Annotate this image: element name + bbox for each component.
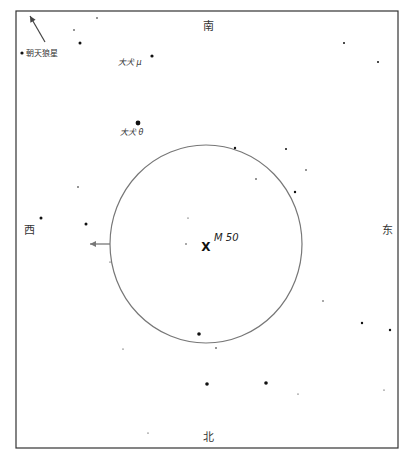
star	[322, 300, 323, 301]
direction-east-label: 东	[382, 221, 393, 237]
star	[147, 432, 148, 433]
sirius-pointer-label: 朝天狼星	[26, 47, 58, 58]
labeled-star[interactable]	[150, 54, 153, 57]
star	[234, 147, 236, 149]
star	[255, 178, 257, 180]
star-label-mu-cma: 大犬 μ	[118, 56, 142, 67]
star	[343, 42, 345, 44]
star	[96, 17, 98, 19]
direction-south-label: 南	[203, 17, 214, 33]
target-marker-icon[interactable]: X	[201, 240, 211, 254]
star	[264, 381, 268, 385]
star	[294, 191, 296, 193]
star	[77, 186, 79, 188]
star	[389, 329, 391, 331]
star	[122, 348, 123, 349]
direction-west-label: 西	[24, 221, 35, 237]
star	[85, 223, 88, 226]
star	[197, 332, 201, 336]
star	[73, 29, 75, 31]
star	[109, 261, 110, 262]
direction-arrow-icon	[90, 241, 110, 247]
star	[361, 322, 363, 324]
star	[297, 393, 298, 394]
sirius-pointer-dot	[20, 51, 23, 54]
star-field	[40, 17, 392, 433]
star	[185, 243, 186, 244]
star	[79, 42, 82, 45]
direction-north-label: 北	[203, 428, 214, 444]
star	[187, 217, 188, 218]
target-name-label: M 50	[214, 232, 239, 243]
star	[215, 347, 217, 349]
star-chart: X	[0, 0, 414, 464]
star	[383, 389, 384, 390]
star	[377, 61, 379, 63]
star	[205, 382, 209, 386]
star	[305, 169, 307, 171]
star	[285, 148, 287, 150]
star	[40, 217, 43, 220]
star-label-theta-cma: 大犬 θ	[120, 126, 143, 137]
labeled-star[interactable]	[136, 121, 141, 126]
